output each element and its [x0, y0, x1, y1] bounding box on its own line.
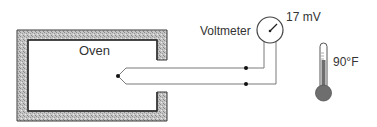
thermometer: 90°F — [316, 43, 359, 101]
oven: Oven — [17, 30, 167, 121]
voltmeter: Voltmeter 17 mV — [200, 10, 321, 43]
thermocouple-wire-bottom — [118, 40, 276, 84]
thermometer-bulb-icon — [316, 85, 332, 101]
thermocouple-diagram: Oven Voltmeter 17 mV 90°F — [0, 0, 377, 127]
thermocouple — [118, 40, 276, 84]
voltmeter-label: Voltmeter — [200, 24, 251, 38]
thermometer-reading: 90°F — [333, 55, 358, 69]
oven-label: Oven — [79, 43, 110, 58]
needle-pivot — [269, 30, 272, 33]
reference-junction-dot-top — [244, 66, 248, 70]
thermocouple-wire-top — [118, 40, 264, 76]
voltmeter-reading: 17 mV — [286, 10, 321, 24]
reference-junction-dot-bottom — [244, 82, 248, 86]
measuring-junction-dot — [116, 74, 120, 78]
